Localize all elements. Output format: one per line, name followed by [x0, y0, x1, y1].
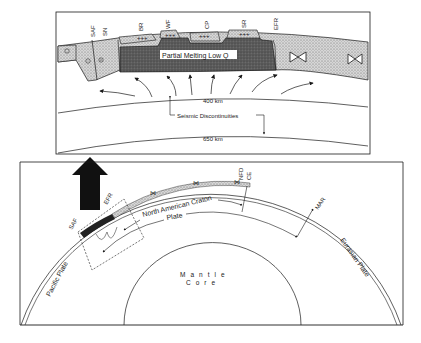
pacific-plate-label: Pacific Plate — [45, 260, 69, 297]
mar-label: MAR — [314, 196, 327, 211]
partial-melting-small — [80, 214, 115, 238]
bottom-panel: ⋈ ⋈ ⋈ NFD CE SAF EFR North American Crat… — [20, 162, 403, 325]
label-cp: CP — [204, 21, 210, 29]
label-saf: SAF — [90, 25, 96, 37]
plus-markers: +++ — [137, 35, 148, 41]
plus-markers: +++ — [199, 33, 210, 39]
top-panel: +++ +++ +++ +++ SAF SN BR WF CP SR EFR P… — [56, 12, 370, 154]
tectonic-cross-section-diagram: +++ +++ +++ +++ SAF SN BR WF CP SR EFR P… — [0, 0, 421, 343]
plus-markers: +++ — [165, 32, 176, 38]
label-sn: SN — [102, 28, 108, 36]
partial-melting-label: Partial Melting Low Q — [162, 52, 229, 60]
label-efr-small: EFR — [103, 192, 115, 206]
eurasian-plate-label: Eurasian Plate — [339, 237, 371, 278]
label-sr: SR — [241, 19, 247, 28]
label-saf-small: SAF — [68, 217, 79, 230]
label-wf: WF — [165, 19, 171, 29]
bowtie-symbol-icon: ⋈ — [193, 180, 199, 186]
plate-label: Plate — [166, 211, 183, 221]
label-ce: CE — [246, 172, 252, 180]
label-br: BR — [138, 22, 144, 31]
depth-400-label: 400 km — [203, 98, 223, 104]
bowtie-symbol-icon: ⋈ — [150, 190, 156, 196]
label-nfd: NFD — [238, 167, 244, 180]
core-label: Core — [186, 279, 220, 286]
label-efr: EFR — [273, 17, 279, 30]
depth-650-label: 650 km — [203, 136, 223, 142]
mantle-label: Mantle — [180, 271, 230, 278]
plus-markers: +++ — [239, 31, 250, 37]
seismic-discontinuities-label: Seismic Discontinuities — [177, 113, 238, 119]
earth-surface-arc — [21, 194, 401, 325]
pacific-block — [58, 45, 76, 62]
